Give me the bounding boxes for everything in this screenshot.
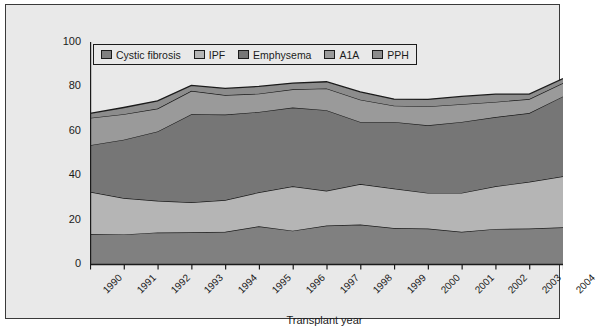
y-tick-label: 40: [51, 168, 81, 180]
legend-label: Emphysema: [253, 49, 311, 61]
legend-label: PPH: [387, 49, 409, 61]
legend-item-a1a[interactable]: A1A: [324, 49, 359, 61]
figure-outer-frame: % of transplants 020406080100 1990199119…: [5, 4, 560, 319]
legend-label: IPF: [209, 49, 225, 61]
y-tick-label: 60: [51, 124, 81, 136]
legend-item-cystic-fibrosis[interactable]: Cystic fibrosis: [101, 49, 181, 61]
legend-swatch-icon: [194, 50, 205, 59]
area-series-group: [90, 79, 563, 264]
legend-item-pph[interactable]: PPH: [372, 49, 409, 61]
legend-item-ipf[interactable]: IPF: [194, 49, 225, 61]
plot-area: [90, 42, 563, 264]
legend-label: A1A: [339, 49, 359, 61]
y-tick-label: 100: [51, 35, 81, 47]
x-tick-marks: [91, 265, 564, 270]
x-tick-label: 2004: [574, 272, 597, 296]
legend-item-emphysema[interactable]: Emphysema: [238, 49, 311, 61]
legend-swatch-icon: [238, 50, 249, 59]
legend-swatch-icon: [101, 50, 112, 59]
chart-legend: Cystic fibrosisIPFEmphysemaA1APPH: [93, 44, 417, 65]
stacked-area-chart: [90, 42, 563, 282]
legend-label: Cystic fibrosis: [116, 49, 181, 61]
x-axis-title: Transplant year: [287, 314, 363, 326]
legend-swatch-icon: [372, 50, 383, 59]
legend-swatch-icon: [324, 50, 335, 59]
y-tick-label: 80: [51, 79, 81, 91]
y-tick-label: 20: [51, 213, 81, 225]
figure-inner-panel: % of transplants 020406080100 1990199119…: [17, 14, 550, 311]
y-tick-label: 0: [51, 257, 81, 269]
